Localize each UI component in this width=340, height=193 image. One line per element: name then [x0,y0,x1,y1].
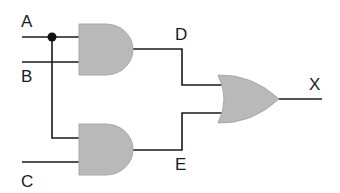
logic-circuit-diagram: A B C D E X [0,0,340,193]
label-c: C [21,172,33,191]
label-d: D [175,25,187,44]
and-gate-2 [79,124,133,175]
junction-dot [48,33,57,42]
wire-e [133,113,225,150]
wire-a-branch [52,37,80,138]
or-gate [218,75,279,123]
label-a: A [21,12,33,31]
wire-d [133,49,225,85]
label-x: X [309,75,320,94]
and-gate-1 [79,24,133,75]
label-b: B [21,67,32,86]
label-e: E [175,155,186,174]
